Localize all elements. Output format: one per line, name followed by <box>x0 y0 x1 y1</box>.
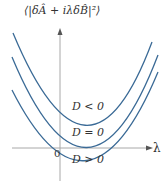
curve-label-d-equals-zero: D = 0 <box>72 127 104 138</box>
curve-label-d-less-than-zero: D < 0 <box>72 101 104 112</box>
x-axis-label: λ <box>153 142 161 154</box>
y-axis-arrow-icon <box>58 28 63 35</box>
origin-label: 0 <box>54 149 60 159</box>
parabola-diagram: ⟨|δÂ + iλδB̂|²⟩ D < 0 D = 0 D > 0 0 λ <box>0 0 168 181</box>
y-axis-label: ⟨|δÂ + iλδB̂|²⟩ <box>24 5 100 16</box>
curve-label-d-greater-than-zero: D > 0 <box>72 154 104 165</box>
x-axis-arrow-icon <box>146 146 153 151</box>
